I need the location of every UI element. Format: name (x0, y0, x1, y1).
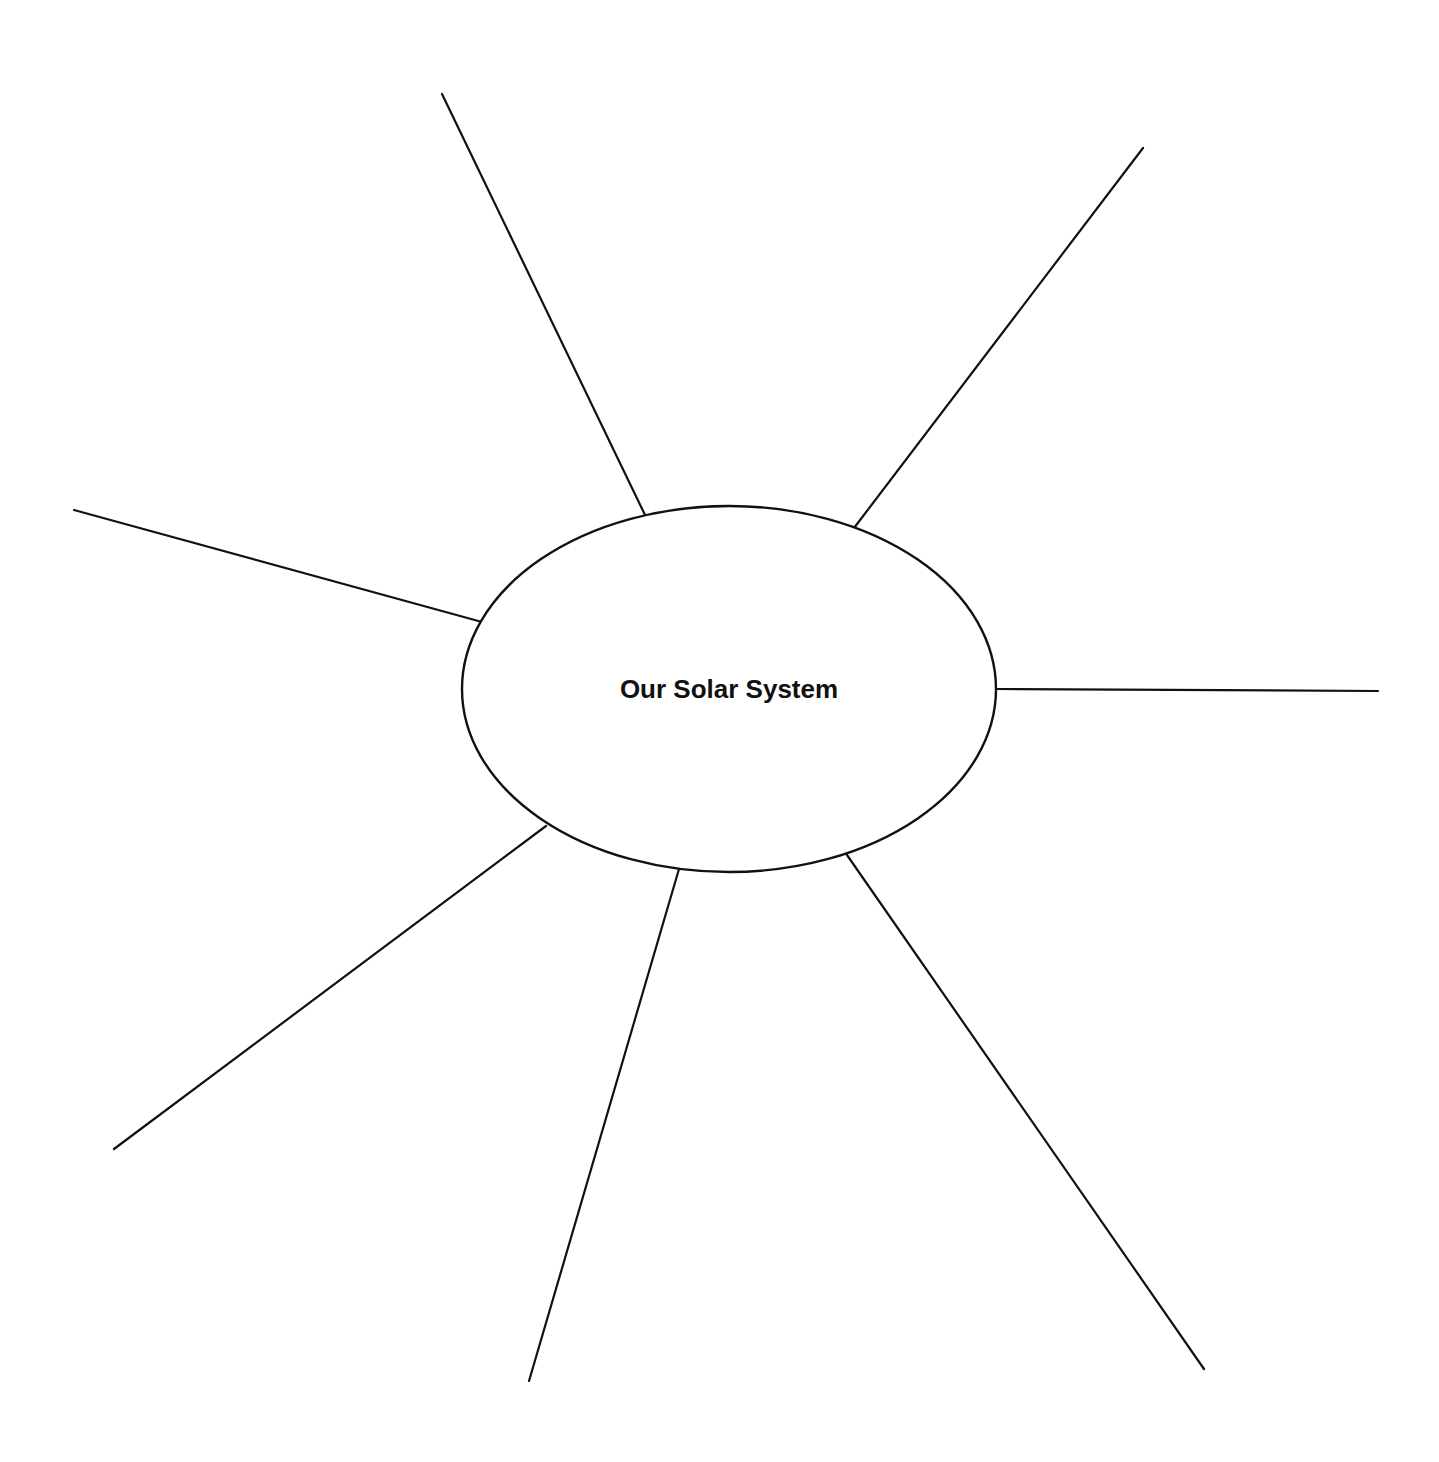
spoke-bottom-right (847, 855, 1204, 1369)
spoke-left (74, 510, 482, 622)
spoke-bottom-center-left (529, 869, 679, 1381)
center-label: Our Solar System (620, 674, 838, 704)
spoke-top-left (442, 94, 646, 517)
spoke-right (997, 689, 1378, 691)
spoke-bottom-left (114, 826, 546, 1149)
solar-system-web-diagram: Our Solar System (0, 0, 1439, 1462)
spoke-top-right (854, 148, 1143, 528)
